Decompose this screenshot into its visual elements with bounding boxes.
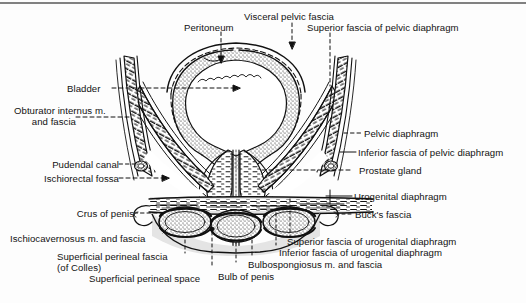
label-superior-fascia-of-urogenital-diaphragm: Superior fascia of urogenital diaphragm [287,236,456,247]
label-bladder: Bladder [67,83,100,94]
label-superior-fascia-of-pelvic-diaphragm: Superior fascia of pelvic diaphragm [307,22,459,33]
label-bucks-fascia: Buck's fascia [355,209,411,220]
label-inferior-fascia-of-pelvic-diaphragm: Inferior fascia of pelvic diaphragm [358,147,503,158]
label-urogenital-diaphragm: Urogenital diaphragm [354,191,447,202]
label-prostate-gland: Prostate gland [359,165,422,176]
label-pudendal-canal: Pudendal canal [0,159,119,170]
label-visceral-pelvic-fascia: Visceral pelvic fascia [244,11,334,22]
label-superficial-perineal-fascia-line1: Superficial perineal fascia [57,251,168,262]
label-bulb-of-penis: Bulb of penis [218,271,274,282]
label-obturator-internus-line2: and fascia [0,116,76,127]
label-ischiorectal-fossa: Ischiorectal fossa [0,173,119,184]
label-inferior-fascia-of-urogenital-diaphragm: Inferior fascia of urogenital diaphragm [279,247,442,258]
label-peritoneum: Peritoneum [184,22,234,33]
label-obturator-internus-line1: Obturator internus m. [14,105,106,116]
label-superficial-perineal-fascia-line2: (of Colles) [57,262,101,273]
label-ischiocavernosus: Ischiocavernosus m. and fascia [10,233,145,244]
label-bulbospongiosus: Bulbospongiosus m. and fascia [248,259,382,270]
figure-canvas: Peritoneum Visceral pelvic fascia Superi… [0,0,526,303]
label-crus-of-penis: Crus of penis [0,208,134,219]
label-superficial-perineal-space: Superficial perineal space [89,273,200,284]
label-pelvic-diaphragm: Pelvic diaphragm [364,128,438,139]
